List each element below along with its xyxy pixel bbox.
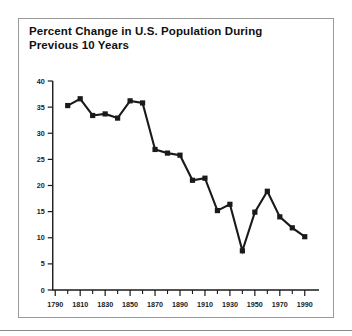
data-point-marker: [90, 113, 95, 118]
y-axis-tick-labels: 0510152025303540: [37, 77, 45, 295]
data-point-marker: [78, 96, 83, 101]
data-point-marker: [240, 248, 245, 253]
x-tick-label: 1810: [72, 300, 88, 309]
data-point-marker: [103, 111, 108, 116]
x-tick-label: 1930: [222, 300, 238, 309]
data-point-marker: [277, 214, 282, 219]
page-bottom-rule: [0, 330, 352, 331]
x-tick-label: 1970: [272, 300, 288, 309]
data-point-marker: [252, 210, 257, 215]
data-point-marker: [177, 153, 182, 158]
data-point-marker: [128, 98, 133, 103]
data-point-markers: [65, 96, 307, 253]
data-point-marker: [190, 178, 195, 183]
x-tick-label: 1790: [47, 300, 63, 309]
y-tick-label: 10: [37, 233, 45, 242]
figure-container: Percent Change in U.S. Population During…: [18, 18, 334, 318]
x-axis-tick-labels: 1790181018301850187018901910193019501970…: [47, 300, 313, 309]
x-tick-label: 1950: [247, 300, 263, 309]
y-tick-label: 25: [37, 155, 45, 164]
page-canvas: Percent Change in U.S. Population During…: [0, 0, 352, 336]
data-point-marker: [165, 151, 170, 156]
data-point-marker: [152, 147, 157, 152]
x-tick-label: 1910: [197, 300, 213, 309]
y-tick-label: 40: [37, 77, 45, 86]
x-tick-label: 1850: [122, 300, 138, 309]
axes-group: [53, 81, 319, 290]
x-tick-label: 1870: [147, 300, 163, 309]
x-axis-ticks: [55, 290, 305, 296]
data-point-marker: [302, 234, 307, 239]
x-tick-label: 1990: [297, 300, 313, 309]
data-point-marker: [227, 202, 232, 207]
y-tick-label: 5: [41, 259, 45, 268]
data-point-marker: [65, 103, 70, 108]
data-series-population-change: [68, 99, 305, 251]
data-point-marker: [140, 100, 145, 105]
data-point-marker: [215, 208, 220, 213]
y-tick-label: 30: [37, 129, 45, 138]
data-point-marker: [115, 116, 120, 121]
data-point-marker: [202, 176, 207, 181]
y-tick-label: 35: [37, 103, 45, 112]
y-axis-ticks: [48, 81, 53, 290]
x-tick-label: 1830: [97, 300, 113, 309]
y-tick-label: 15: [37, 207, 45, 216]
plot-area: 0510152025303540 17901810183018501870189…: [19, 19, 335, 319]
data-point-marker: [290, 225, 295, 230]
line-chart: 0510152025303540 17901810183018501870189…: [19, 19, 335, 319]
y-tick-label: 20: [37, 181, 45, 190]
data-point-marker: [265, 189, 270, 194]
y-tick-label: 0: [41, 286, 45, 295]
x-tick-label: 1890: [172, 300, 188, 309]
